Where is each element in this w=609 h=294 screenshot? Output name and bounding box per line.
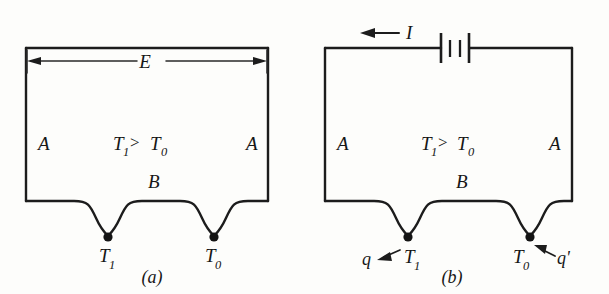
panel-a-junction-cold-subscript: 0 xyxy=(215,258,222,272)
panel-a-bottom-conductor xyxy=(26,201,268,236)
panel-a: E A A B T 1 > T 0 T 1 T 0 xyxy=(26,48,268,288)
panel-b-heat-hot-label: q xyxy=(362,249,371,269)
panel-a-relation: T 1 > T 0 xyxy=(113,133,168,159)
panel-b-relation: T 1 > T 0 xyxy=(421,133,475,159)
panel-b-junction-cold-label: T 0 xyxy=(513,246,530,273)
panel-a-emf-arrowhead-left xyxy=(27,57,41,65)
panel-a-relation-right-subscript: 0 xyxy=(161,145,168,159)
panel-a-conductor-right-label: A xyxy=(244,133,258,154)
panel-b-conductor-bottom-label: B xyxy=(456,171,468,192)
panel-a-relation-left-subscript: 1 xyxy=(123,145,129,159)
battery-icon xyxy=(441,33,469,63)
panel-b-heat-cold-label: q' xyxy=(557,248,571,268)
panel-b-relation-left-subscript: 1 xyxy=(431,145,437,159)
panel-a-junction-cold-label: T 0 xyxy=(205,245,222,272)
panel-a-junction-hot-label: T 1 xyxy=(99,245,115,272)
panel-a-caption: (a) xyxy=(142,267,163,288)
panel-a-relation-operator: > xyxy=(130,133,140,152)
panel-a-junction-cold-dot xyxy=(209,232,218,241)
heat-arrow-cold xyxy=(534,245,555,256)
panel-b-conductor-left-label: A xyxy=(335,133,349,154)
panel-b-junction-cold-dot xyxy=(525,232,534,241)
heat-arrow-cold-head xyxy=(534,245,547,254)
thermocouple-figure: E A A B T 1 > T 0 T 1 T 0 xyxy=(0,0,609,294)
panel-b: I A A B T 1 > T 0 T 1 xyxy=(325,22,572,288)
current-arrow-head xyxy=(360,28,375,38)
current-arrow xyxy=(360,28,399,38)
panel-b-conductor-right-label: A xyxy=(547,133,561,154)
heat-arrow-hot xyxy=(377,250,400,261)
panel-a-conductor-left-label: A xyxy=(36,133,50,154)
panel-a-emf-arrowhead-right xyxy=(253,57,267,65)
heat-arrow-hot-head xyxy=(377,252,392,261)
panel-a-junction-hot-subscript: 1 xyxy=(109,258,115,272)
panel-b-relation-right-subscript: 0 xyxy=(468,145,475,159)
panel-a-junction-hot-dot xyxy=(103,232,112,241)
figure-root: E A A B T 1 > T 0 T 1 T 0 xyxy=(0,0,609,294)
panel-b-junction-hot-subscript: 1 xyxy=(414,259,420,273)
panel-b-bottom-conductor xyxy=(325,201,572,236)
panel-b-caption: (b) xyxy=(442,267,463,288)
panel-a-conductor-bottom-label: B xyxy=(148,171,160,192)
panel-b-junction-hot-label: T 1 xyxy=(404,246,420,273)
panel-b-relation-operator: > xyxy=(438,133,448,152)
panel-b-current-label: I xyxy=(405,22,414,43)
panel-b-junction-cold-subscript: 0 xyxy=(523,259,530,273)
panel-b-junction-hot-dot xyxy=(403,232,412,241)
panel-a-emf-label: E xyxy=(138,51,151,72)
